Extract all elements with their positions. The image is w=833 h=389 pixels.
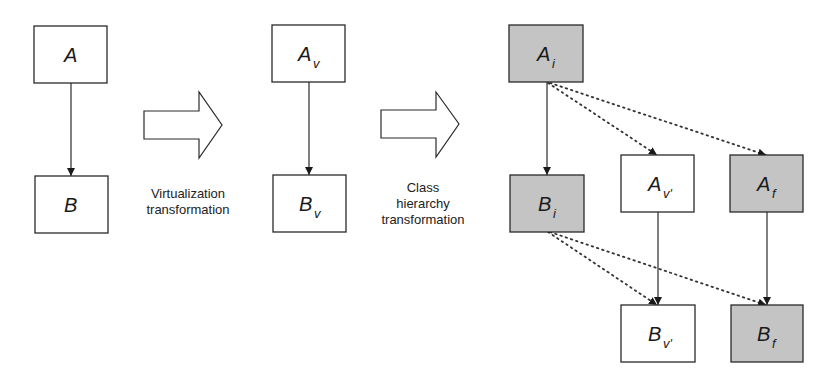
block-arrow-icon (144, 92, 222, 158)
class-hierarchy-caption-line2: hierarchy (396, 196, 450, 211)
box-Av-prime: A v' (621, 155, 694, 212)
box-Bv-label: B (299, 193, 312, 215)
box-A-label: A (63, 44, 77, 66)
dotted-edge-Ai-Af (550, 83, 766, 155)
diagram-canvas: A B Virtualization transformation A v (0, 0, 833, 389)
box-Ai-label: A (536, 43, 550, 65)
box-Bf-label: B (757, 323, 770, 345)
box-Av-prime-label: A (647, 173, 661, 195)
dotted-edge-Bi-Bv2 (548, 232, 657, 305)
box-Bi-label: B (538, 193, 551, 215)
box-A: A (34, 26, 107, 83)
box-B-label: B (64, 194, 77, 216)
stage-original: A B (34, 26, 108, 233)
stage-virtualized: A v B v (272, 25, 346, 232)
dotted-edge-Ai-Av2 (548, 83, 657, 155)
box-Bf: B f (731, 305, 803, 362)
box-Af-label: A (756, 173, 770, 195)
virtualization-transformation: Virtualization transformation (144, 92, 230, 217)
box-Av-prime-subscript: v' (663, 186, 673, 201)
class-hierarchy-caption-line1: Class (407, 180, 440, 195)
block-arrow-icon (381, 92, 459, 157)
box-Av-label: A (297, 43, 311, 65)
class-hierarchy-transformation: Class hierarchy transformation (381, 92, 465, 227)
box-Bv: B v (273, 175, 346, 232)
stage-class-hierarchy: A i B i A v' A f B v' (509, 25, 803, 362)
box-Bv-prime-label: B (648, 323, 661, 345)
class-transformation-diagram: A B Virtualization transformation A v (0, 0, 833, 389)
virtualization-caption-line1: Virtualization (151, 186, 225, 201)
box-Af: A f (730, 155, 803, 212)
box-Av: A v (272, 25, 345, 82)
box-Bi: B i (510, 175, 584, 232)
box-Bv-prime-subscript: v' (663, 336, 673, 351)
box-B: B (35, 176, 108, 233)
virtualization-caption-line2: transformation (146, 202, 229, 217)
box-Bv-prime: B v' (621, 305, 695, 362)
class-hierarchy-caption-line3: transformation (381, 212, 464, 227)
box-Ai: A i (509, 25, 583, 82)
